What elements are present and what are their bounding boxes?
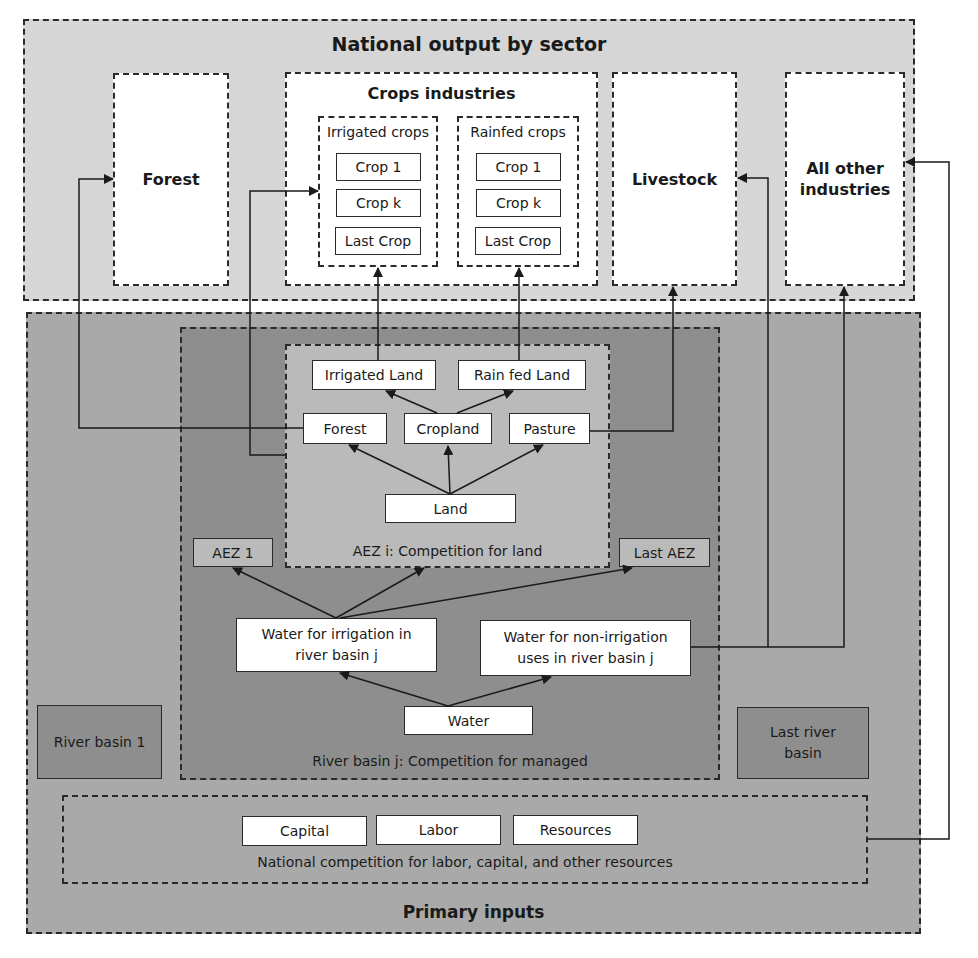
water-node[interactable]: Water: [404, 706, 533, 735]
sector-forest[interactable]: Forest: [113, 73, 229, 286]
aez-1-node[interactable]: AEZ 1: [193, 538, 273, 567]
crops-industries-title: Crops industries: [287, 84, 596, 103]
rainfed-crop-1[interactable]: Crop 1: [476, 153, 561, 181]
last-aez-node[interactable]: Last AEZ: [619, 538, 710, 567]
primary-inputs-title: Primary inputs: [28, 902, 919, 922]
rainfed-crops-title: Rainfed crops: [459, 124, 577, 140]
irrigated-crop-1[interactable]: Crop 1: [336, 153, 421, 181]
labor-node[interactable]: Labor: [376, 815, 501, 845]
sector-livestock[interactable]: Livestock: [612, 72, 737, 286]
last-river-basin-node[interactable]: Last river basin: [737, 707, 869, 779]
sector-forest-label: Forest: [142, 170, 199, 189]
rainfed-crop-k[interactable]: Crop k: [476, 189, 561, 217]
capital-node[interactable]: Capital: [242, 816, 367, 846]
sector-all-other-industries[interactable]: All other industries: [785, 72, 905, 286]
pasture-node[interactable]: Pasture: [509, 413, 590, 444]
river-basin-j-caption: River basin j: Competition for managed: [182, 753, 718, 769]
irrigated-last-crop[interactable]: Last Crop: [335, 227, 421, 255]
irrigated-crops-title: Irrigated crops: [320, 124, 436, 140]
sector-other-label: All other industries: [795, 158, 895, 200]
irrigated-crop-k[interactable]: Crop k: [336, 189, 421, 217]
water-non-irrigation-node[interactable]: Water for non-irrigation uses in river b…: [480, 620, 691, 676]
national-competition-caption: National competition for labor, capital,…: [64, 854, 866, 870]
irrigated-land-node[interactable]: Irrigated Land: [312, 360, 436, 390]
national-output-title: National output by sector: [25, 33, 913, 55]
rainfed-land-node[interactable]: Rain fed Land: [458, 360, 586, 390]
land-node[interactable]: Land: [385, 494, 516, 523]
sector-livestock-label: Livestock: [632, 170, 717, 189]
river-basin-1-node[interactable]: River basin 1: [37, 705, 162, 779]
aez-i-caption: AEZ i: Competition for land: [287, 543, 608, 559]
water-irrigation-node[interactable]: Water for irrigation in river basin j: [236, 618, 437, 672]
forest-land-node[interactable]: Forest: [303, 413, 387, 444]
resources-node[interactable]: Resources: [513, 815, 638, 845]
rainfed-last-crop[interactable]: Last Crop: [475, 227, 561, 255]
cropland-node[interactable]: Cropland: [404, 413, 492, 444]
